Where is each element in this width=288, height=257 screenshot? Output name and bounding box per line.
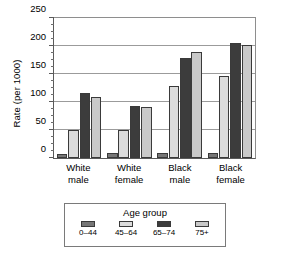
- x-axis-labels: WhitemaleWhitefemaleBlackmaleBlackfemale: [53, 162, 256, 185]
- x-axis-label-line: female: [104, 174, 155, 186]
- y-tick-label: 250: [30, 4, 46, 14]
- legend: Age group 0–4445–6465–7475+: [64, 203, 226, 247]
- x-axis-label-line: Black: [205, 162, 256, 174]
- x-axis-label-line: male: [155, 174, 206, 186]
- bar: [230, 43, 241, 158]
- y-tick-label: 150: [30, 60, 46, 70]
- legend-label: 45–64: [107, 228, 145, 237]
- y-axis-title: Rate (per 1000): [11, 34, 22, 154]
- bar: [157, 153, 168, 158]
- bar-groups: [54, 18, 255, 158]
- x-axis-label-line: female: [205, 174, 256, 186]
- bar: [242, 45, 253, 158]
- x-axis-label-line: male: [53, 174, 104, 186]
- bar-group: [54, 18, 104, 158]
- y-tick-label: 50: [35, 116, 46, 126]
- bar-group: [205, 18, 255, 158]
- legend-swatch: [119, 221, 133, 227]
- y-tick-label: 200: [30, 32, 46, 42]
- bar: [118, 130, 129, 158]
- legend-swatch: [195, 221, 209, 227]
- legend-item: 0–44: [69, 221, 107, 237]
- x-axis-label: Blackfemale: [205, 162, 256, 185]
- bar: [57, 154, 68, 158]
- legend-item: 65–74: [145, 221, 183, 237]
- bar: [219, 76, 230, 158]
- bar: [141, 107, 152, 158]
- bar-group: [104, 18, 154, 158]
- legend-item: 75+: [183, 221, 221, 237]
- bar: [107, 153, 118, 158]
- bar: [180, 58, 191, 158]
- x-axis-label-line: Black: [155, 162, 206, 174]
- plot-area: 250200150100500: [53, 17, 256, 159]
- legend-label: 65–74: [145, 228, 183, 237]
- bar-chart-figure: Rate (per 1000) 250200150100500 Whitemal…: [0, 0, 288, 257]
- bar: [80, 93, 91, 158]
- x-axis-label: Whitefemale: [104, 162, 155, 185]
- legend-label: 0–44: [69, 228, 107, 237]
- bar: [130, 106, 141, 158]
- legend-swatch: [81, 221, 95, 227]
- legend-item: 45–64: [107, 221, 145, 237]
- bar: [91, 97, 102, 158]
- legend-swatch: [157, 221, 171, 227]
- bar: [208, 153, 219, 158]
- legend-label: 75+: [183, 228, 221, 237]
- x-axis-label-line: White: [53, 162, 104, 174]
- legend-title: Age group: [65, 207, 225, 218]
- y-tick-label: 0: [41, 144, 46, 154]
- x-axis-label-line: White: [104, 162, 155, 174]
- y-tick-label: 100: [30, 88, 46, 98]
- bar: [191, 52, 202, 158]
- x-axis-label: Whitemale: [53, 162, 104, 185]
- x-axis-label: Blackmale: [155, 162, 206, 185]
- bar: [169, 86, 180, 158]
- legend-items: 0–4445–6465–7475+: [65, 221, 225, 237]
- bar: [68, 130, 79, 158]
- bar-group: [155, 18, 205, 158]
